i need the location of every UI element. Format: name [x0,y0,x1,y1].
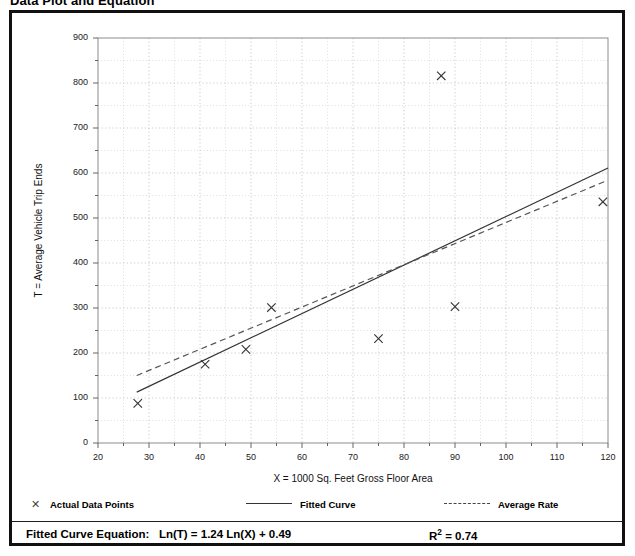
legend-label: Actual Data Points [50,499,134,510]
y-tick-label: 300 [42,302,88,312]
y-tick-label: 800 [42,77,88,87]
solid-line-icon [246,498,292,510]
legend-item-average-rate: Average Rate [444,498,558,510]
y-tick-label: 700 [42,122,88,132]
y-tick-label: 500 [42,212,88,222]
fitted-curve-equation: Fitted Curve Equation: Ln(T) = 1.24 Ln(X… [26,528,291,540]
y-tick-label: 0 [42,437,88,447]
data-point-markers [134,72,608,408]
legend-item-fitted-curve: Fitted Curve [246,498,355,510]
dashed-line-icon [444,498,490,510]
data-point-marker [451,302,459,310]
x-axis-label: X = 1000 Sq. Feet Gross Floor Area [98,473,608,484]
x-tick-label: 50 [231,452,271,462]
y-tick-label: 400 [42,257,88,267]
equation-prefix: Fitted Curve Equation: [26,528,149,540]
equation-divider [12,521,622,522]
x-tick-label: 80 [384,452,424,462]
x-tick-label: 100 [486,452,526,462]
r-squared-value: R2 = 0.74 [429,528,477,542]
data-point-marker [599,198,607,206]
r-squared-exponent: 2 [437,528,442,537]
y-tick-label: 200 [42,347,88,357]
r-squared-number: = 0.74 [445,530,477,542]
x-tick-label: 40 [180,452,220,462]
series-lines [137,168,608,392]
x-tick-label: 20 [78,452,118,462]
legend-item-actual-data-points: ✕ Actual Data Points [28,498,134,511]
x-marker-icon: ✕ [28,498,42,511]
axis-ticks [93,38,608,448]
data-point-marker [242,345,250,353]
x-tick-label: 70 [333,452,373,462]
x-tick-label: 60 [282,452,322,462]
y-axis-label: T = Average Vehicle Trip Ends [33,131,44,331]
chart-page: Data Plot and Equation T = Average Vehic… [0,0,635,556]
y-tick-label: 100 [42,392,88,402]
legend-label: Fitted Curve [300,499,355,510]
legend-label: Average Rate [498,499,558,510]
data-point-marker [437,72,445,80]
x-tick-label: 110 [537,452,577,462]
y-tick-label: 600 [42,167,88,177]
x-tick-label: 120 [588,452,628,462]
equation-row: Fitted Curve Equation: Ln(T) = 1.24 Ln(X… [14,528,620,548]
x-tick-label: 90 [435,452,475,462]
data-point-marker [201,360,209,368]
chart-legend: ✕ Actual Data Points Fitted Curve Averag… [14,496,620,518]
equation-formula: Ln(T) = 1.24 Ln(X) + 0.49 [159,528,291,540]
y-tick-label: 900 [42,32,88,42]
x-tick-label: 30 [129,452,169,462]
data-point-marker [267,303,275,311]
data-point-marker [134,399,142,407]
